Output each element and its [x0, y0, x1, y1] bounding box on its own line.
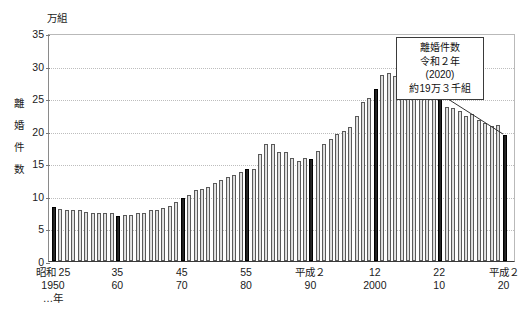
bar — [226, 177, 230, 261]
x-axis-label: 平成２20 — [474, 266, 530, 292]
bar — [168, 206, 172, 261]
bar — [78, 210, 82, 261]
bar — [309, 159, 313, 261]
bar — [425, 98, 429, 262]
bar — [303, 158, 307, 261]
annotation-callout: 離婚件数 令和２年 (2020) 約19万３千組 — [396, 37, 484, 100]
x-axis-label-line-3: …年 — [23, 292, 83, 305]
bar — [464, 116, 468, 261]
bar — [58, 209, 62, 261]
x-axis-label-line-2: 80 — [216, 279, 276, 292]
bar — [374, 89, 378, 261]
bar — [155, 210, 159, 261]
x-axis-label: 4570 — [152, 266, 212, 292]
y-axis-tick-mark — [46, 263, 50, 264]
y-axis-tick-label: 5 — [18, 223, 44, 235]
x-axis-label-line-2: 2000 — [345, 279, 405, 292]
bar — [342, 131, 346, 261]
bar — [239, 172, 243, 261]
bar — [503, 135, 507, 261]
bar — [91, 213, 95, 261]
bar — [264, 144, 268, 261]
y-axis-tick-label: 30 — [18, 61, 44, 73]
y-axis-tick-label: 35 — [18, 28, 44, 40]
y-axis-tick-label: 10 — [18, 191, 44, 203]
bar — [232, 175, 236, 261]
bar — [142, 213, 146, 261]
bar — [103, 213, 107, 261]
bar — [219, 180, 223, 261]
bar — [284, 152, 288, 261]
bar — [316, 151, 320, 261]
bar — [412, 94, 416, 261]
bar — [290, 158, 294, 261]
bar — [458, 111, 462, 261]
bar — [136, 213, 140, 261]
annotation-line-2: 令和２年 — [399, 55, 481, 69]
x-axis-label-line-1: 平成２ — [474, 266, 530, 279]
y-axis-tick-label: 25 — [18, 93, 44, 105]
bar — [194, 190, 198, 261]
bar — [245, 169, 249, 262]
bar — [367, 98, 371, 261]
y-axis-unit-label: 万組 — [47, 10, 67, 25]
bar — [322, 144, 326, 261]
x-axis-label-line-2: 10 — [409, 279, 469, 292]
x-axis-label: 2210 — [409, 266, 469, 292]
bar — [419, 95, 423, 261]
x-axis-label-line-1: 昭和 25 — [23, 266, 83, 279]
bar — [271, 144, 275, 261]
clipped-header-strip: ———— ————— ———— —— ————— — — [0, 0, 530, 8]
bar — [477, 120, 481, 261]
bar — [483, 123, 487, 261]
x-axis-label-line-2: 90 — [280, 279, 340, 292]
bar — [406, 90, 410, 261]
bar — [348, 127, 352, 261]
bar — [174, 202, 178, 261]
annotation-line-3: (2020) — [399, 68, 481, 82]
bar — [380, 75, 384, 261]
bar — [496, 125, 500, 261]
bar — [252, 169, 256, 262]
bar — [355, 116, 359, 261]
bar — [387, 73, 391, 261]
bar — [52, 207, 56, 261]
bar — [258, 154, 262, 261]
x-axis-label-line-1: 22 — [409, 266, 469, 279]
bar — [445, 107, 449, 261]
bar — [361, 102, 365, 261]
bar — [129, 215, 133, 261]
x-axis-label-line-1: 55 — [216, 266, 276, 279]
x-axis-label: 昭和 251950…年 — [23, 266, 83, 305]
bar — [213, 183, 217, 261]
annotation-line-1: 離婚件数 — [399, 41, 481, 55]
bar — [181, 198, 185, 261]
bar — [277, 152, 281, 261]
bar — [470, 114, 474, 261]
x-axis-label-line-2: 1950 — [23, 279, 83, 292]
bar — [65, 210, 69, 261]
bar — [123, 215, 127, 261]
x-axis-label-line-1: 12 — [345, 266, 405, 279]
x-axis-label: 122000 — [345, 266, 405, 292]
x-axis-label-line-1: 平成２ — [280, 266, 340, 279]
chart-figure: ———— ————— ———— —— ————— — 万組 離 婚 件 数 05… — [0, 0, 530, 318]
bar — [400, 85, 404, 261]
y-axis-title-char-3: 件 — [12, 136, 26, 158]
bar — [97, 213, 101, 261]
bar — [432, 96, 436, 261]
x-axis-label-line-1: 35 — [87, 266, 147, 279]
bar — [490, 126, 494, 261]
x-axis-label: 5580 — [216, 266, 276, 292]
bar — [335, 134, 339, 261]
bar — [200, 189, 204, 261]
annotation-line-4: 約19万３千組 — [399, 82, 481, 96]
bar — [84, 212, 88, 262]
bar — [206, 187, 210, 261]
bar — [297, 161, 301, 261]
y-axis-tick-label: 20 — [18, 126, 44, 138]
clipped-header-text: ———— ————— ———— —— ————— — — [60, 0, 332, 3]
x-axis-label-line-2: 60 — [87, 279, 147, 292]
bar — [71, 210, 75, 261]
bar — [329, 139, 333, 261]
